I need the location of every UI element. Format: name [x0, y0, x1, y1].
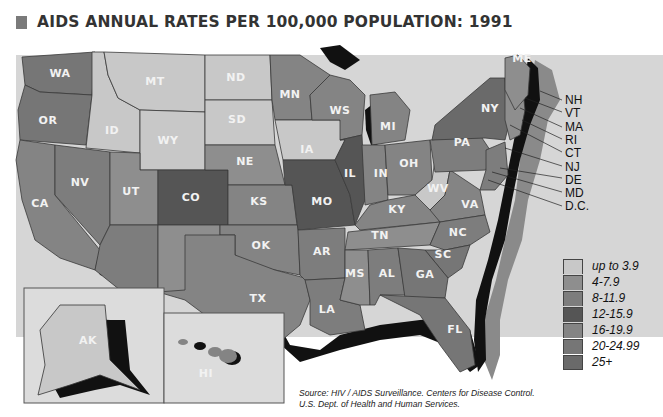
svg-text:KY: KY: [388, 203, 406, 216]
svg-text:VA: VA: [461, 198, 478, 211]
legend-swatch: [563, 291, 583, 306]
legend-label: 25+: [592, 355, 612, 369]
source-line-1: Source: HIV / AIDS Surveillance. Centers…: [299, 388, 535, 399]
legend-item: up to 3.9: [563, 258, 639, 274]
svg-text:SC: SC: [435, 248, 452, 261]
legend-label: 4-7.9: [592, 275, 619, 289]
svg-text:MD: MD: [565, 186, 584, 200]
svg-text:CT: CT: [565, 146, 582, 160]
svg-text:TN: TN: [371, 229, 389, 242]
svg-text:IA: IA: [300, 143, 314, 156]
legend-swatch: [563, 339, 583, 354]
svg-text:IN: IN: [374, 167, 388, 180]
legend-swatch: [563, 355, 583, 370]
svg-text:SD: SD: [228, 113, 246, 126]
svg-text:ME: ME: [512, 52, 531, 65]
svg-text:WV: WV: [427, 182, 449, 195]
legend-item: 4-7.9: [563, 274, 639, 290]
svg-text:AR: AR: [313, 245, 331, 258]
legend-swatch: [563, 307, 583, 322]
svg-text:MN: MN: [279, 88, 300, 101]
legend-swatch: [563, 259, 583, 274]
svg-text:ND: ND: [226, 71, 245, 84]
svg-text:PA: PA: [454, 136, 471, 149]
legend-item: 25+: [563, 354, 639, 370]
svg-text:NC: NC: [449, 226, 467, 239]
svg-text:NH: NH: [565, 93, 582, 107]
legend-label: 8-11.9: [592, 291, 625, 305]
svg-text:OK: OK: [252, 239, 271, 252]
svg-text:IL: IL: [344, 167, 356, 180]
svg-text:MT: MT: [145, 75, 164, 88]
svg-text:GA: GA: [416, 268, 435, 281]
svg-text:NE: NE: [236, 155, 254, 168]
legend-swatch: [563, 275, 583, 290]
svg-text:VT: VT: [565, 106, 581, 120]
svg-text:NV: NV: [71, 176, 90, 189]
svg-text:MS: MS: [345, 267, 365, 280]
svg-text:ID: ID: [105, 124, 119, 137]
legend-item: 20-24.99: [563, 338, 639, 354]
svg-text:DE: DE: [565, 173, 582, 187]
svg-text:NY: NY: [481, 102, 500, 115]
svg-text:NJ: NJ: [565, 160, 580, 174]
legend-item: 16-19.9: [563, 322, 639, 338]
svg-text:MO: MO: [311, 195, 332, 208]
svg-text:LA: LA: [319, 303, 336, 316]
svg-text:AK: AK: [79, 334, 97, 347]
legend-label: 12-15.9: [592, 307, 633, 321]
legend: up to 3.9 4-7.9 8-11.9 12-15.9 16-19.9 2…: [563, 258, 639, 370]
svg-text:OR: OR: [39, 114, 58, 127]
svg-text:UT: UT: [122, 185, 139, 198]
state-mi: [370, 92, 410, 145]
svg-text:WY: WY: [157, 134, 179, 147]
svg-text:CA: CA: [31, 197, 49, 210]
svg-text:KS: KS: [250, 195, 267, 208]
svg-text:MI: MI: [380, 120, 396, 133]
svg-text:MA: MA: [565, 120, 583, 134]
svg-text:HI: HI: [199, 367, 213, 380]
svg-text:WA: WA: [49, 67, 70, 80]
legend-item: 8-11.9: [563, 290, 639, 306]
svg-text:AL: AL: [379, 267, 396, 280]
northeast-labels: NH VT MA RI CT NJ DE MD D.C.: [565, 93, 589, 213]
svg-text:OH: OH: [399, 157, 419, 170]
svg-text:FL: FL: [447, 323, 463, 336]
svg-text:WS: WS: [329, 104, 350, 117]
legend-label: 16-19.9: [592, 323, 633, 337]
legend-label: up to 3.9: [592, 259, 639, 273]
source-line-2: U.S. Dept. of Health and Human Services.: [299, 399, 535, 410]
svg-text:D.C.: D.C.: [565, 199, 589, 213]
svg-text:RI: RI: [565, 133, 577, 147]
svg-text:TX: TX: [250, 292, 267, 305]
legend-item: 12-15.9: [563, 306, 639, 322]
svg-text:CO: CO: [182, 191, 200, 204]
source-note: Source: HIV / AIDS Surveillance. Centers…: [299, 388, 535, 410]
legend-label: 20-24.99: [592, 339, 639, 353]
legend-swatch: [563, 323, 583, 338]
